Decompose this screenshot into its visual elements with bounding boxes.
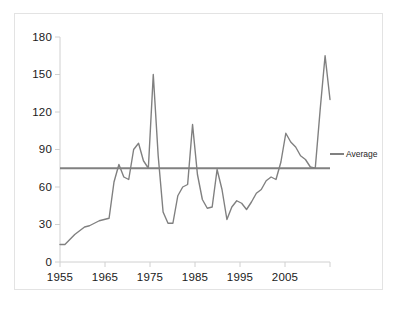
legend-swatch-average <box>330 153 344 155</box>
chart-container: 180 150 120 90 60 30 0 1955 1965 1975 19… <box>0 0 399 316</box>
legend-label-average: Average <box>346 149 378 159</box>
y-tick-label-180: 180 <box>18 31 52 43</box>
x-tick-label-1965: 1965 <box>82 271 128 283</box>
x-tick-label-2005: 2005 <box>262 271 308 283</box>
x-tick-label-1985: 1985 <box>172 271 218 283</box>
y-tick-label-150: 150 <box>18 68 52 80</box>
y-tick-label-60: 60 <box>18 181 52 193</box>
x-tick-label-1995: 1995 <box>217 271 263 283</box>
y-tick-label-30: 30 <box>18 218 52 230</box>
y-tick-label-0: 0 <box>18 256 52 268</box>
x-tick-label-1955: 1955 <box>37 271 83 283</box>
y-tick-label-90: 90 <box>18 143 52 155</box>
chart-legend: Average <box>330 149 378 159</box>
chart-plot-frame <box>14 13 383 290</box>
x-tick-label-1975: 1975 <box>127 271 173 283</box>
y-tick-label-120: 120 <box>18 106 52 118</box>
